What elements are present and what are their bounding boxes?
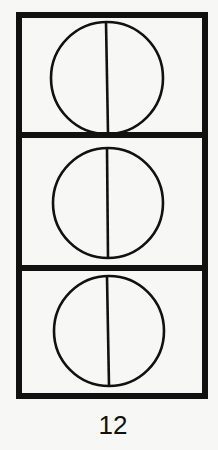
panel-3 <box>54 276 164 386</box>
vertical-divider-line <box>107 148 108 258</box>
outer-frame <box>19 15 205 396</box>
vertical-divider-line <box>106 22 108 133</box>
vertical-divider-line <box>107 277 109 386</box>
figure-diagram <box>0 0 218 450</box>
figure-label: 12 <box>0 410 218 441</box>
panel-1 <box>51 22 163 134</box>
panel-2 <box>53 148 163 258</box>
